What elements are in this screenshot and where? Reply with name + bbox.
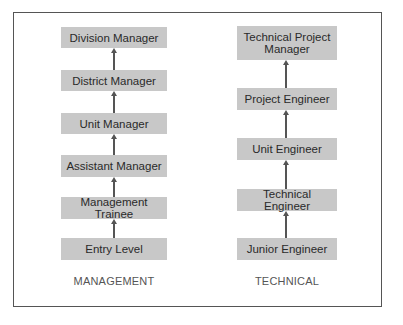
arrow-up <box>285 114 287 138</box>
box-unit-manager: Unit Manager <box>61 113 167 134</box>
box-technical-project-manager: Technical Project Manager <box>237 26 337 60</box>
box-district-manager: District Manager <box>61 70 167 91</box>
arrow-up <box>113 95 115 113</box>
arrow-up <box>113 138 115 155</box>
box-junior-engineer: Junior Engineer <box>237 238 337 260</box>
box-project-engineer: Project Engineer <box>237 88 337 110</box>
arrow-up <box>285 215 287 238</box>
box-technical-engineer: Technical Engineer <box>237 189 337 211</box>
box-division-manager: Division Manager <box>61 27 167 48</box>
arrow-up <box>113 52 115 70</box>
arrow-up <box>285 64 287 88</box>
box-unit-engineer: Unit Engineer <box>237 138 337 160</box>
box-management-trainee: Management Trainee <box>61 197 167 219</box>
box-entry-level: Entry Level <box>61 238 167 260</box>
arrow-up <box>285 164 287 189</box>
box-assistant-manager: Assistant Manager <box>61 155 167 177</box>
column-title-technical: TECHNICAL <box>237 275 337 287</box>
arrow-up <box>113 181 115 197</box>
arrow-up <box>113 223 115 238</box>
column-title-management: MANAGEMENT <box>61 275 167 287</box>
